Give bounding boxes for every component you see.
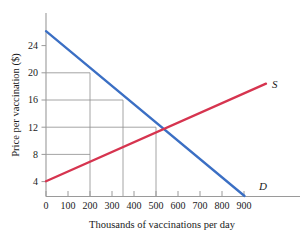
y-tick-label-16: 16 [28, 94, 38, 105]
y-axis-title: Price per vaccination ($) [10, 53, 22, 157]
x-axis-ticks [46, 191, 244, 197]
x-tick-label-700: 700 [193, 200, 208, 211]
chart-svg: 24 20 16 12 8 4 0 100 200 300 400 500 60… [0, 0, 305, 240]
y-tick-label-12: 12 [28, 122, 38, 133]
x-tick-label-500: 500 [149, 200, 164, 211]
x-tick-label-0: 0 [44, 200, 49, 211]
y-tick-label-4: 4 [33, 176, 38, 187]
supply-curve-label: S [272, 78, 278, 90]
y-tick-label-8: 8 [33, 149, 38, 160]
y-tick-labels: 24 20 16 12 8 4 [28, 40, 38, 187]
demand-curve-label: D [258, 180, 267, 192]
x-axis-title: Thousands of vaccinations per day [89, 219, 236, 230]
y-axis-ticks [42, 46, 47, 182]
x-tick-label-300: 300 [105, 200, 120, 211]
gridlines [46, 73, 156, 196]
x-tick-labels: 0 100 200 300 400 500 600 700 800 900 [44, 200, 252, 211]
y-tick-label-20: 20 [28, 67, 38, 78]
x-tick-label-200: 200 [83, 200, 98, 211]
x-tick-label-800: 800 [215, 200, 230, 211]
x-tick-label-900: 900 [237, 200, 252, 211]
x-tick-label-600: 600 [171, 200, 186, 211]
y-tick-label-24: 24 [28, 40, 38, 51]
x-tick-label-100: 100 [61, 200, 76, 211]
supply-demand-chart: 24 20 16 12 8 4 0 100 200 300 400 500 60… [0, 0, 305, 240]
demand-curve [46, 31, 245, 196]
x-tick-label-400: 400 [127, 200, 142, 211]
